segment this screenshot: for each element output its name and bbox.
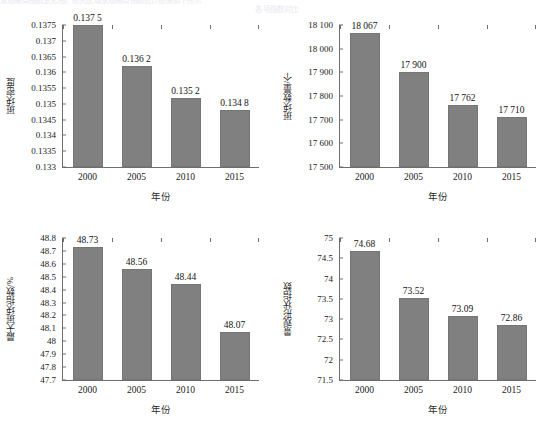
y-axis-label: 斑块密度 <box>2 25 16 167</box>
y-axis-tick-label: 71.5 <box>317 375 333 385</box>
x-axis-tick-mark <box>112 238 113 242</box>
x-axis-tick-label: 2015 <box>502 385 521 395</box>
bar[interactable] <box>122 66 152 167</box>
x-axis-tick-mark <box>63 25 64 29</box>
y-axis-label-text: 最大斑块指数/% <box>3 277 16 341</box>
y-axis-tick-label: 0.1375 <box>31 20 56 30</box>
y-axis-tick-label: 0.133 <box>36 162 56 172</box>
y-axis-tick-label: 0.137 <box>36 36 56 46</box>
x-axis-tick-label: 2010 <box>453 385 472 395</box>
bar[interactable] <box>171 284 201 380</box>
x-axis-tick-label: 2005 <box>404 172 423 182</box>
y-axis-label: 斑块数量/个 <box>279 25 293 167</box>
x-axis-tick-mark <box>210 238 211 242</box>
y-axis-tick-label: 48.8 <box>40 233 56 243</box>
x-axis-tick-label: 2010 <box>176 385 195 395</box>
x-axis-tick-mark <box>258 238 259 242</box>
y-axis-tick-label: 0.1365 <box>31 52 56 62</box>
bar-value-label: 0.137 5 <box>73 13 102 23</box>
x-axis-tick-label: 2005 <box>127 385 146 395</box>
axes-box: 74.68200073.52200573.09201072.862015年份 <box>339 238 536 381</box>
y-axis-tick-label: 18 000 <box>308 44 333 54</box>
bar[interactable] <box>171 98 201 167</box>
x-axis-tick-label: 2005 <box>127 172 146 182</box>
y-axis-tick-label: 0.134 <box>36 130 56 140</box>
x-axis-tick-label: 2015 <box>225 172 244 182</box>
y-axis-tick-label: 47.7 <box>40 375 56 385</box>
bar[interactable] <box>220 332 250 380</box>
y-axis-tick-label: 48.3 <box>40 298 56 308</box>
bar-value-label: 73.09 <box>452 304 473 314</box>
bar[interactable] <box>122 269 152 380</box>
bar[interactable] <box>399 72 429 167</box>
x-axis-tick-label: 2000 <box>78 172 97 182</box>
y-axis-ticks: 0.1330.13350.1340.13450.1350.13550.1360.… <box>18 25 62 167</box>
x-axis-tick-label: 2010 <box>453 172 472 182</box>
y-axis-tick-label: 17 800 <box>308 91 333 101</box>
x-axis-label: 年份 <box>428 189 448 203</box>
y-axis-tick-label: 48.2 <box>40 310 56 320</box>
bar-value-label: 74.68 <box>354 239 375 249</box>
x-axis-tick-mark <box>340 238 341 242</box>
figure-grid: 斑块密度0.1330.13350.1340.13450.1350.13550.1… <box>0 13 554 446</box>
y-axis-label: 景观形状指数 <box>279 238 293 380</box>
bar-value-label: 48.44 <box>175 272 196 282</box>
x-axis-tick-mark <box>535 238 536 242</box>
bar-value-label: 72.86 <box>501 313 522 323</box>
bar[interactable] <box>448 105 478 167</box>
x-axis-tick-mark <box>487 238 488 242</box>
bar[interactable] <box>73 247 103 380</box>
y-axis-tick-label: 73 <box>324 314 333 324</box>
bar-value-label: 17 710 <box>498 105 524 115</box>
y-axis-tick-label: 47.8 <box>40 362 56 372</box>
y-axis-tick-label: 0.1345 <box>31 115 56 125</box>
chart-panel-patch-number: 斑块数量/个17 50017 60017 70017 80017 90018 0… <box>277 13 554 226</box>
y-axis-tick-label: 72 <box>324 355 333 365</box>
y-axis-tick-label: 17 700 <box>308 115 333 125</box>
chart-panel-landscape-shape-index: 景观形状指数71.57272.57373.57474.57574.6820007… <box>277 226 554 446</box>
y-axis-tick-label: 18 100 <box>308 20 333 30</box>
x-axis-tick-mark <box>438 25 439 29</box>
axes-box: 0.137 520000.136 220050.135 220100.134 8… <box>62 25 259 168</box>
bar-value-label: 48.56 <box>126 257 147 267</box>
bar[interactable] <box>73 25 103 167</box>
plot-area: 71.57272.57373.57474.57574.68200073.5220… <box>295 238 535 380</box>
bar[interactable] <box>497 325 527 380</box>
y-axis-tick-label: 17 600 <box>308 138 333 148</box>
x-axis-tick-label: 2015 <box>502 172 521 182</box>
x-axis-tick-mark <box>161 25 162 29</box>
bar[interactable] <box>350 33 380 167</box>
bar[interactable] <box>350 251 380 380</box>
bar[interactable] <box>497 117 527 167</box>
y-axis-tick-label: 48.4 <box>40 285 56 295</box>
bar-value-label: 0.136 2 <box>122 54 151 64</box>
axes-box: 48.73200048.56200548.44201048.072015年份 <box>62 238 259 381</box>
x-axis-tick-mark <box>535 25 536 29</box>
plot-area: 0.1330.13350.1340.13450.1350.13550.1360.… <box>18 25 258 167</box>
y-axis-tick-label: 0.135 <box>36 99 56 109</box>
y-axis-tick-label: 48.6 <box>40 259 56 269</box>
bar[interactable] <box>448 316 478 381</box>
y-axis-tick-label: 75 <box>324 233 333 243</box>
x-axis-tick-label: 2005 <box>404 385 423 395</box>
figure-caption-line-2: 各项指数对比 <box>0 6 554 13</box>
x-axis-tick-mark <box>438 238 439 242</box>
y-axis-ticks: 71.57272.57373.57474.575 <box>295 238 339 380</box>
x-axis-tick-mark <box>340 25 341 29</box>
bar-value-label: 0.135 2 <box>171 86 200 96</box>
x-axis-tick-label: 2000 <box>355 385 374 395</box>
bar[interactable] <box>220 110 250 167</box>
y-axis-label-text: 景观形状指数 <box>280 282 293 336</box>
x-axis-tick-label: 2015 <box>225 385 244 395</box>
y-axis-tick-label: 48.5 <box>40 272 56 282</box>
bar[interactable] <box>399 298 429 380</box>
figure-caption-strip: 景观格局指数变化图，研究区域景观格局指数统计结果如下所示 各项指数对比 <box>0 0 554 13</box>
x-axis-tick-mark <box>389 25 390 29</box>
bar-value-label: 0.134 8 <box>220 98 249 108</box>
bar-value-label: 17 762 <box>449 93 475 103</box>
x-axis-tick-label: 2010 <box>176 172 195 182</box>
y-axis-tick-label: 17 900 <box>308 67 333 77</box>
y-axis-tick-label: 48 <box>47 336 56 346</box>
y-axis-tick-label: 48.7 <box>40 246 56 256</box>
chart-panel-patch-density: 斑块密度0.1330.13350.1340.13450.1350.13550.1… <box>0 13 277 226</box>
